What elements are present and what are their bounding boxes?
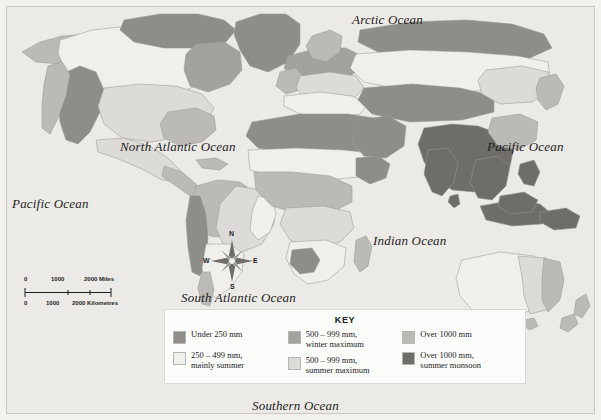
key-title: KEY <box>165 315 525 325</box>
compass-rose: N S W E <box>203 230 261 292</box>
scale-bar: 0 1000 2000 Miles 0 1000 2000 Kilometres <box>24 276 120 310</box>
ocean-label-south-atlantic: South Atlantic Ocean <box>181 290 296 306</box>
key-label-over-1000-monsoon: Over 1000 mm, summer monsoon <box>420 351 481 370</box>
key-swatch-500-999-summer <box>288 357 301 370</box>
key-column-3: Over 1000 mm Over 1000 mm, summer monsoo… <box>402 330 517 375</box>
world-precipitation-map-page: Arctic Ocean North Atlantic Ocean Pacifi… <box>0 0 601 420</box>
ocean-label-arctic: Arctic Ocean <box>352 12 423 28</box>
key-swatch-over-1000 <box>402 331 415 344</box>
ocean-label-north-atlantic: North Atlantic Ocean <box>120 139 236 155</box>
key-entry-over-1000-monsoon: Over 1000 mm, summer monsoon <box>402 351 517 370</box>
key-entry-250-499: 250 – 499 mm, mainly summer <box>173 351 288 370</box>
scale-ruler-graphic <box>24 287 112 298</box>
key-label-500-999-winter: 500 – 999 mm, winter maximum <box>306 330 364 349</box>
key-entry-over-1000: Over 1000 mm <box>402 330 517 344</box>
ocean-label-pacific-west: Pacific Ocean <box>12 196 89 212</box>
key-entry-under-250: Under 250 mm <box>173 330 288 344</box>
key-label-under-250: Under 250 mm <box>191 330 242 340</box>
key-entry-500-999-summer: 500 – 999 mm, summer maximum <box>288 356 403 375</box>
key-label-250-499: 250 – 499 mm, mainly summer <box>191 351 244 370</box>
key-swatch-500-999-winter <box>288 331 301 344</box>
key-swatch-under-250 <box>173 331 186 344</box>
scale-km-tick-0: 0 <box>24 300 27 306</box>
scale-km-row: 0 1000 2000 Kilometres <box>24 300 120 310</box>
ocean-label-pacific-east: Pacific Ocean <box>487 139 564 155</box>
key-swatch-over-1000-monsoon <box>402 352 415 365</box>
key-columns: Under 250 mm 250 – 499 mm, mainly summer… <box>165 330 525 375</box>
ocean-label-southern: Southern Ocean <box>252 398 339 414</box>
key-label-over-1000: Over 1000 mm <box>420 330 471 340</box>
scale-miles-row: 0 1000 2000 Miles <box>24 276 120 286</box>
scale-miles-tick-1: 1000 <box>51 276 64 282</box>
scale-km-tick-1: 1000 <box>46 300 59 306</box>
key-label-500-999-summer: 500 – 999 mm, summer maximum <box>306 356 370 375</box>
ocean-label-indian: Indian Ocean <box>373 233 447 249</box>
key-column-2: 500 – 999 mm, winter maximum 500 – 999 m… <box>288 330 403 375</box>
scale-miles-tick-2: 2000 Miles <box>84 276 114 282</box>
map-key-legend: KEY Under 250 mm 250 – 499 mm, mainly su… <box>164 309 526 384</box>
scale-km-tick-2: 2000 Kilometres <box>72 300 118 306</box>
key-column-1: Under 250 mm 250 – 499 mm, mainly summer <box>173 330 288 375</box>
compass-star-icon <box>203 230 261 292</box>
key-entry-500-999-winter: 500 – 999 mm, winter maximum <box>288 330 403 349</box>
key-swatch-250-499 <box>173 352 186 365</box>
scale-miles-tick-0: 0 <box>24 276 27 282</box>
